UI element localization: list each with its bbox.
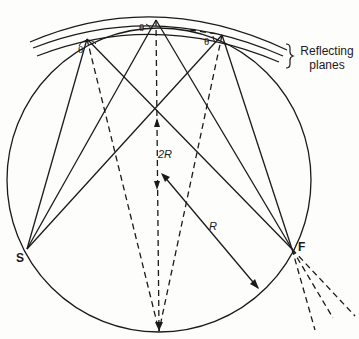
source-label: S [16,252,24,264]
planes-brace-icon [286,44,293,68]
normal-p1 [87,39,159,331]
ray-s-p2 [27,20,156,249]
ray-beyond-f-1 [292,249,315,330]
theta-label-right: θ [204,36,209,47]
ray-beyond-f-2 [292,249,333,318]
reflecting-plane-middle [33,26,283,56]
radius-center-arrowhead-icon [161,173,170,182]
theta-label-left: θ [78,44,83,55]
caption-line-2: planes [296,58,358,72]
ray-p2-f [156,20,292,249]
ray-p3-f [222,35,292,249]
caption-line-1: Reflecting [296,44,358,58]
reflecting-planes-caption: Reflecting planes [296,44,358,72]
focus-label: F [298,241,305,253]
radius-label: R [209,221,217,232]
normal-p2 [156,20,159,331]
two-r-label: 2R [158,149,172,160]
two-r-down-arrowhead-icon [154,181,160,190]
theta-label-top: θ [139,22,144,33]
normal-p3 [159,35,222,331]
ray-s-p3 [27,35,222,249]
bottom-arrowhead-icon [155,322,163,331]
two-r-up-arrowhead-icon [154,118,160,127]
ray-s-p1 [27,39,87,249]
focusing-circle [7,28,311,332]
reflecting-plane-inner [37,34,279,62]
diagram-canvas: θ θ θ S F 2R R Reflecting planes [0,0,359,339]
